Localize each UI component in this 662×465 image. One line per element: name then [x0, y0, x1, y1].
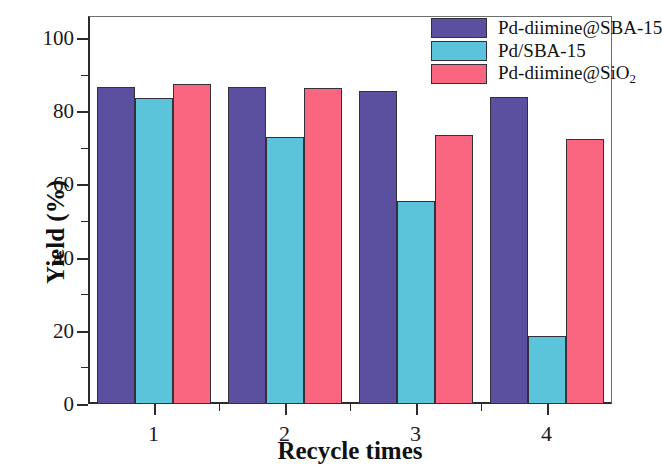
bar	[397, 201, 435, 404]
y-axis-minor-tick	[81, 221, 88, 222]
y-axis-tick	[77, 331, 88, 333]
x-axis-title: Recycle times	[88, 437, 612, 465]
x-axis-tick	[285, 404, 287, 415]
y-axis-tick-label: 80	[53, 99, 74, 124]
legend-label: Pd-diimine@SBA-15	[498, 17, 662, 39]
bar	[435, 135, 473, 404]
bar	[266, 137, 304, 404]
bar	[135, 98, 173, 404]
legend-label: Pd/SBA-15	[498, 40, 586, 62]
legend-item: Pd-diimine@SBA-15	[431, 17, 662, 39]
legend-label: Pd-diimine@SiO2	[498, 62, 636, 87]
chart-legend: Pd-diimine@SBA-15Pd/SBA-15Pd-diimine@SiO…	[431, 17, 662, 86]
bar	[528, 336, 566, 404]
y-axis-tick	[77, 111, 88, 113]
legend-item: Pd/SBA-15	[431, 40, 662, 62]
x-axis-minor-tick	[481, 404, 482, 411]
legend-item: Pd-diimine@SiO2	[431, 63, 662, 85]
y-axis-tick-label: 0	[64, 392, 75, 417]
legend-swatch	[431, 64, 487, 84]
y-axis-minor-tick	[81, 367, 88, 368]
bar	[228, 87, 266, 404]
y-axis-tick	[77, 184, 88, 186]
y-axis-minor-tick	[81, 75, 88, 76]
bar	[304, 88, 342, 404]
y-axis-tick	[77, 258, 88, 260]
y-axis-tick	[77, 404, 88, 406]
y-axis-tick-label: 100	[43, 25, 75, 50]
y-axis-tick	[77, 38, 88, 40]
bar	[359, 91, 397, 404]
x-axis-minor-tick	[219, 404, 220, 411]
y-axis-tick-label: 20	[53, 318, 74, 343]
y-axis-minor-tick	[81, 148, 88, 149]
bar	[173, 84, 211, 404]
bar	[566, 139, 604, 404]
x-axis-tick	[547, 404, 549, 415]
x-axis-tick	[154, 404, 156, 415]
y-axis-title: Yield (%)	[42, 180, 70, 284]
y-axis-minor-tick	[81, 294, 88, 295]
x-axis-tick	[416, 404, 418, 415]
legend-swatch	[431, 41, 487, 61]
bar	[97, 87, 135, 404]
bar	[490, 97, 528, 404]
x-axis-minor-tick	[350, 404, 351, 411]
legend-swatch	[431, 18, 487, 38]
